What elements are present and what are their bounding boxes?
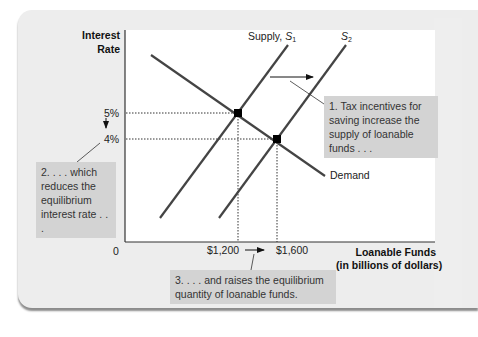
supply2-symbol: S — [341, 30, 348, 42]
x-axis-title-line1: Loanable Funds — [336, 246, 436, 259]
annotation-note1: 1. Tax incentives for saving increase th… — [324, 96, 438, 158]
supply2-label: S2 — [341, 30, 352, 43]
supply1-label: Supply, S1 — [248, 30, 296, 43]
note2-leader — [77, 143, 100, 162]
annotation-note3: 3. . . . and raises the equilibrium quan… — [170, 270, 336, 304]
x-tick-1600: $1,600 — [276, 244, 308, 256]
y-axis-title-line2: Rate — [82, 42, 120, 56]
supply2-subscript: 2 — [348, 36, 352, 43]
annotation-note2: 2. . . . which reduces the equilibrium i… — [36, 162, 116, 238]
y-axis-title-line1: Interest — [82, 28, 120, 42]
x-axis-title-line2: (in billions of dollars) — [336, 259, 436, 272]
y-axis-title: Interest Rate — [82, 28, 120, 56]
origin-label: 0 — [113, 245, 119, 257]
equilibrium-point-initial — [234, 109, 242, 117]
supply1-prefix: Supply, — [248, 30, 285, 42]
demand-label: Demand — [330, 169, 370, 181]
supply1-subscript: 1 — [292, 36, 296, 43]
note3-leader — [251, 254, 254, 270]
x-axis-title: Loanable Funds (in billions of dollars) — [336, 246, 436, 272]
y-tick-4pct: 4% — [104, 133, 119, 145]
y-tick-5pct: 5% — [104, 107, 119, 119]
x-tick-1200: $1,200 — [207, 244, 239, 256]
equilibrium-point-new — [273, 135, 281, 143]
